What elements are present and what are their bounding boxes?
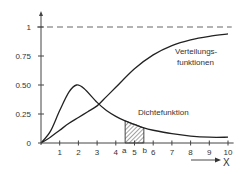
y-tick-label: 0 — [27, 139, 32, 148]
cdf-label-line2: funktionen — [177, 58, 214, 67]
x-tick-label: 7 — [170, 148, 175, 157]
y-tick-label: 0.50 — [15, 81, 31, 90]
x-tick-label: 4 — [114, 148, 119, 157]
y-tick-label: 0.25 — [15, 110, 31, 119]
pdf-label: Dichtefunktion — [138, 108, 189, 117]
x-arrow-head-icon — [215, 158, 221, 163]
chart: 1234567891000.250.500.751 a b Verteilung… — [0, 0, 242, 174]
x-tick-label: 6 — [151, 148, 156, 157]
cdf-label-line1: Verteilungs- — [175, 47, 218, 56]
x-tick-label: 10 — [224, 148, 233, 157]
x-tick-label: 5 — [132, 148, 137, 157]
x-tick-label: 2 — [76, 148, 81, 157]
interval-label-a: a — [122, 146, 127, 155]
y-axis-arrow-icon — [39, 11, 43, 16]
x-axis-label: X — [223, 157, 230, 168]
x-tick-label: 1 — [57, 148, 62, 157]
interval-label-b: b — [143, 146, 148, 155]
x-tick-label: 8 — [188, 148, 193, 157]
x-tick-label: 9 — [207, 148, 212, 157]
y-tick-label: 1 — [27, 23, 32, 32]
y-tick-label: 0.75 — [15, 52, 31, 61]
x-tick-label: 3 — [95, 148, 100, 157]
